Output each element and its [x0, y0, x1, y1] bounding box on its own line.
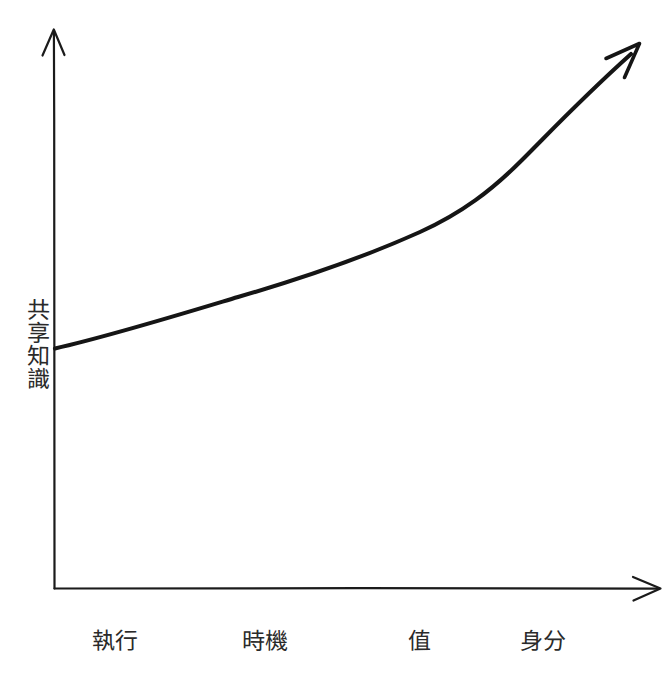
- x-axis-label-execution: 執行: [92, 622, 138, 656]
- x-axis-label-timing: 時機: [242, 622, 288, 656]
- knowledge-growth-curve: [55, 54, 631, 349]
- y-axis-line: [54, 32, 55, 589]
- chart-canvas: 共享知識 執行 時機 值 身分: [0, 0, 670, 682]
- y-axis-label: 共享知識: [17, 288, 50, 400]
- hand-drawn-line-chart: [0, 0, 670, 682]
- x-axis-label-value: 值: [408, 622, 431, 656]
- x-axis-label-identity: 身分: [520, 622, 566, 656]
